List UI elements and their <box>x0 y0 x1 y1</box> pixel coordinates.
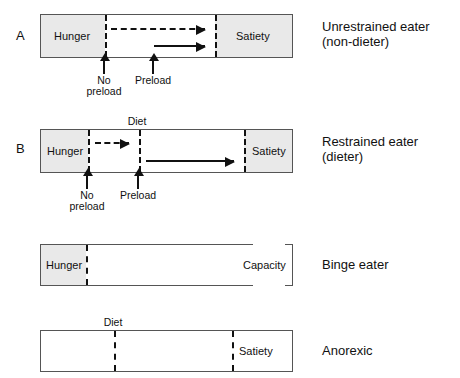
panel-d-description: Anorexic <box>322 343 373 358</box>
panel-c-bar: Hunger <box>40 244 253 286</box>
panel-b-no-preload-arrow <box>95 142 129 144</box>
panel-a-letter: A <box>16 29 25 42</box>
panel-a-preload-arrow <box>154 45 205 47</box>
panel-a-preload-label: Preload <box>123 75 183 86</box>
arrow-head-icon <box>225 157 235 167</box>
arrow-head-icon <box>196 42 206 52</box>
panel-a-hunger-boundary-divider <box>105 15 107 57</box>
panel-c-capacity-label: Capacity <box>243 259 286 271</box>
callout-arrow-icon <box>86 175 88 189</box>
arrow-head-icon <box>196 25 206 35</box>
panel-b-diet-boundary-divider <box>139 130 141 172</box>
panel-a-satiety-boundary-divider <box>215 15 217 57</box>
panel-b-hunger-label: Hunger <box>47 146 83 157</box>
panel-b: B Diet Hunger Satiety No preload <box>0 113 460 218</box>
panel-d-satiety-label: Satiety <box>239 346 273 357</box>
panel-b-description: Restrained eater (dieter) <box>322 134 418 164</box>
callout-arrow-icon <box>103 60 105 74</box>
panel-a-satiety-label: Satiety <box>236 31 270 42</box>
panel-c-hunger-boundary-divider <box>86 245 88 285</box>
panel-b-bar: Hunger Satiety <box>40 129 293 173</box>
panel-b-callout-preload: Preload <box>108 175 168 201</box>
panel-d-bar: Satiety <box>40 330 293 372</box>
panel-b-satiety-boundary-divider <box>244 130 246 172</box>
panel-c-description: Binge eater <box>322 257 389 272</box>
panel-a-no-preload-arrow <box>111 28 205 30</box>
panel-b-preload-label: Preload <box>108 190 168 201</box>
panel-c-hunger-label: Hunger <box>46 260 82 271</box>
panel-a-bar: Hunger Satiety <box>40 14 293 58</box>
panel-c: Hunger Capacity Binge eater <box>0 240 460 292</box>
arrow-head-icon <box>120 139 130 149</box>
panel-b-diet-top-label: Diet <box>128 116 147 127</box>
panel-a-hunger-label: Hunger <box>54 31 90 42</box>
panel-d-diet-top-label: Diet <box>104 317 123 328</box>
panel-a-callout-preload: Preload <box>123 60 183 86</box>
panel-d-satiety-boundary-divider <box>232 331 234 371</box>
callout-arrow-icon <box>137 175 139 189</box>
panel-a-description: Unrestrained eater (non-dieter) <box>322 19 430 49</box>
panel-b-hunger-boundary-divider <box>88 130 90 172</box>
panel-a: A Hunger Satiety No preload Preloa <box>0 0 460 105</box>
panel-d-diet-boundary-divider <box>114 331 116 371</box>
panel-b-satiety-label: Satiety <box>252 146 286 157</box>
boundary-model-figure: A Hunger Satiety No preload Preloa <box>0 0 460 378</box>
panel-d: Diet Satiety Anorexic <box>0 315 460 373</box>
callout-arrow-icon <box>152 60 154 74</box>
panel-b-preload-arrow <box>146 160 234 162</box>
panel-c-capacity-bracket <box>285 244 293 286</box>
panel-b-letter: B <box>16 142 25 155</box>
